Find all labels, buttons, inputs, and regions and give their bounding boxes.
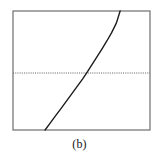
plot-background [0,0,159,133]
figure-caption-row: (b) [0,132,159,157]
plot-svg [0,0,159,133]
plot-area [0,0,159,133]
figure-root: (b) [0,0,159,157]
figure-caption: (b) [72,138,87,151]
